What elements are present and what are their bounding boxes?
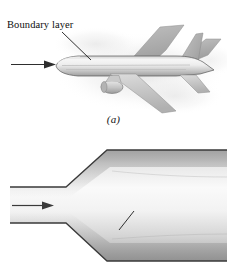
freestream-flow-arrow: [11, 61, 56, 69]
duct-illustration: [0, 137, 227, 274]
fuselage: [56, 56, 214, 76]
panel-a-caption: (a): [0, 113, 227, 125]
panel-b-duct: Boundary layer (b): [0, 137, 227, 274]
figure-boundary-layer-examples: Boundary layer (a): [0, 0, 227, 274]
boundary-layer-label-a: Boundary layer: [7, 19, 73, 30]
panel-a-airplane: Boundary layer (a): [0, 0, 227, 137]
